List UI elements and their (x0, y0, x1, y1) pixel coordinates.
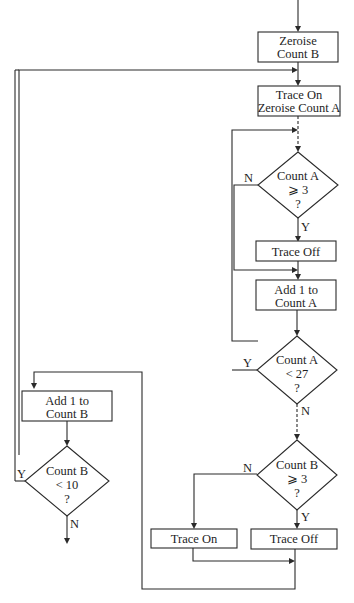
arrow-head-icon (295, 146, 301, 152)
branch-label-no: N (301, 404, 310, 418)
connector-no-branch (194, 474, 257, 527)
node-text: Trace On (171, 532, 218, 546)
node-text: Add 1 to (274, 283, 318, 297)
process-trace-on-zeroise-count-a: Trace On Zeroise Count A (258, 86, 341, 116)
node-text: Count A (275, 296, 317, 310)
node-text: < 27 (286, 367, 309, 381)
node-text: Count A (277, 169, 319, 183)
node-text: Trace Off (272, 245, 321, 259)
node-text: < 10 (56, 478, 79, 492)
branch-label-no: N (243, 461, 252, 475)
node-text: Count A (276, 353, 318, 367)
node-text: ⩾ 3 (287, 472, 307, 486)
node-text: ? (64, 492, 70, 506)
branch-label-yes: Y (301, 510, 310, 524)
arrow-head-icon (292, 67, 298, 73)
node-text: Trace Off (270, 532, 319, 546)
process-trace-off: Trace Off (251, 529, 337, 549)
process-trace-on: Trace On (151, 529, 237, 548)
process-zeroise-count-b: Zeroise Count B (258, 32, 338, 62)
node-text: Add 1 to (45, 394, 89, 408)
arrow-head-icon (289, 558, 295, 564)
arrow-head-icon (295, 274, 301, 280)
arrow-head-icon (191, 523, 197, 529)
node-text: Count B (276, 458, 318, 472)
branch-label-no: N (70, 517, 79, 531)
node-text: Count B (46, 407, 88, 421)
process-add-1-count-a: Add 1 to Count A (256, 280, 336, 310)
node-text: Zeroise Count A (258, 101, 341, 115)
branch-label-yes: Y (17, 467, 26, 481)
arrow-head-icon (292, 127, 298, 133)
arrow-head-icon (295, 80, 301, 86)
decision-count-a-lt-27: Count A < 27 ? (257, 336, 337, 404)
node-text: ? (295, 197, 301, 211)
branch-label-yes: Y (243, 356, 252, 370)
flowchart: Zeroise Count B Trace On Zeroise Count A… (0, 0, 354, 603)
arrow-head-icon (295, 26, 301, 32)
node-text: Count B (277, 47, 319, 61)
process-add-1-count-b: Add 1 to Count B (22, 391, 112, 421)
arrow-head-icon (294, 330, 300, 336)
decision-count-b-lt-10: Count B < 10 ? (25, 446, 109, 516)
arrow-head-icon (64, 440, 70, 446)
branch-label-no: N (244, 171, 253, 185)
arrow-head-icon (31, 383, 37, 389)
connector-merge (193, 548, 293, 561)
arrow-head-icon (294, 434, 300, 440)
node-text: ⩾ 3 (288, 183, 308, 197)
node-text: ? (294, 381, 300, 395)
branch-label-yes: Y (301, 220, 310, 234)
decision-count-a-ge-3: Count A ⩾ 3 ? (258, 152, 338, 218)
decision-count-b-ge-3: Count B ⩾ 3 ? (257, 440, 337, 510)
node-text: Zeroise (279, 34, 317, 48)
arrow-head-icon (294, 523, 300, 529)
process-trace-off: Trace Off (256, 241, 336, 261)
node-text: Trace On (276, 88, 323, 102)
node-text: ? (294, 486, 300, 500)
arrow-head-icon (64, 538, 70, 544)
arrow-head-icon (292, 267, 298, 273)
node-text: Count B (46, 464, 88, 478)
